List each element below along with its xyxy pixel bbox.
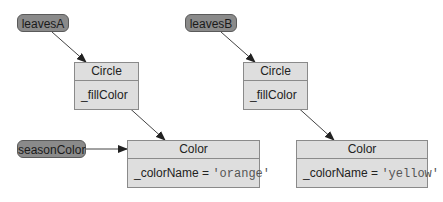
- field-row: _colorName = 'orange': [128, 159, 259, 189]
- field-name: _colorName =: [303, 166, 381, 180]
- field-row: _colorName = 'yellow': [297, 159, 427, 189]
- arrow-leavesA-to-circleA: [52, 32, 86, 62]
- field-name: _colorName =: [134, 166, 212, 180]
- field-value: 'yellow': [381, 167, 439, 181]
- variable-leavesA: leavesA: [17, 14, 69, 32]
- field-name: _fillColor: [244, 81, 307, 110]
- class-name: Color: [297, 141, 427, 159]
- class-name: Circle: [75, 63, 138, 81]
- variable-leavesB: leavesB: [185, 14, 237, 32]
- arrow-leavesB-to-circleB: [221, 32, 255, 62]
- field-value: 'orange': [212, 167, 270, 181]
- variable-label: leavesB: [190, 17, 233, 31]
- variable-label: seasonColor: [18, 143, 85, 157]
- object-color-b: Color _colorName = 'yellow': [296, 140, 428, 188]
- variable-seasonColor: seasonColor: [17, 140, 86, 158]
- object-circle-a: Circle _fillColor: [74, 62, 139, 110]
- class-name: Color: [128, 141, 259, 159]
- object-color-a: Color _colorName = 'orange': [127, 140, 260, 188]
- object-circle-b: Circle _fillColor: [243, 62, 308, 110]
- class-name: Circle: [244, 63, 307, 81]
- variable-label: leavesA: [22, 17, 65, 31]
- field-name: _fillColor: [75, 81, 138, 110]
